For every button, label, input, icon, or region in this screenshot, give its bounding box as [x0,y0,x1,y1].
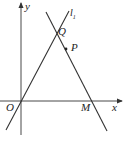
coordinate-diagram: y x O l1 Q P M [0,0,127,148]
line-l1-label-sub: 1 [73,14,76,20]
line-l1-label: l1 [70,7,76,20]
y-axis-label: y [24,0,30,12]
origin-label: O [6,101,14,113]
point-p-dot [65,48,68,51]
point-p-label: P [70,41,78,53]
point-m-label: M [80,101,91,113]
line-qpm [46,12,107,131]
point-q-label: Q [58,25,66,37]
x-axis-label: x [111,101,117,113]
